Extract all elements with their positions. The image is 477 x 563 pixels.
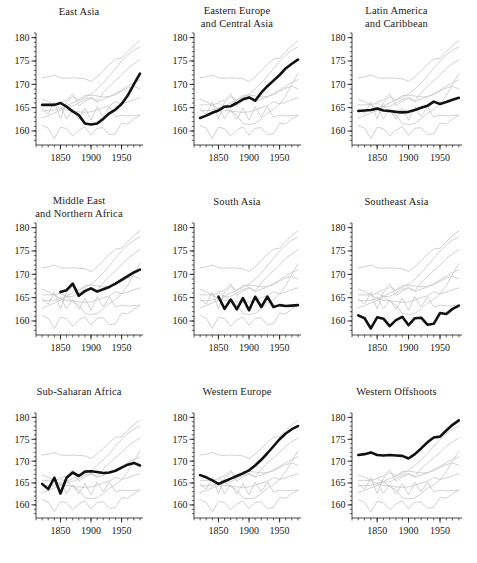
highlight-line-western-offshoots [358,420,459,458]
x-axis-major-ticks: 185019001950 [367,335,450,353]
y-tick-label: 170 [15,456,30,467]
plot-area-southeast-asia: 160165170175180185019001950 [316,190,477,380]
y-tick-label: 170 [173,79,188,90]
x-tick-label: 1850 [50,525,70,536]
x-axis-major-ticks: 185019001950 [50,518,131,536]
context-line-southeast-asia [42,490,140,511]
context-line-latin-america-caribbean [200,98,298,112]
y-tick-label: 170 [173,269,188,280]
x-tick-label: 1850 [367,525,387,536]
y-tick-label: 160 [15,315,30,326]
y-tick-label: 165 [331,102,346,113]
axis-spines [194,413,301,518]
y-tick-label: 180 [15,32,30,43]
y-tick-label: 165 [15,292,30,303]
context-line-western-offshoots [200,420,298,458]
context-line-latin-america-caribbean [358,288,459,302]
x-axis-major-ticks: 185019001950 [208,335,289,353]
plot-area-eastern-europe-central-asia: 160165170175180185019001950 [158,0,316,190]
y-tick-label: 180 [331,32,346,43]
context-line-western-offshoots [200,41,298,82]
x-axis-major-ticks: 185019001950 [367,145,450,163]
x-tick-label: 1950 [270,152,290,163]
context-line-southeast-asia [42,116,140,139]
axis-spines [352,223,462,335]
x-tick-label: 1900 [239,342,259,353]
y-tick-label: 160 [173,315,188,326]
context-line-western-offshoots [42,41,140,82]
axis-spines [352,413,462,518]
context-line-western-offshoots [358,231,459,272]
y-tick-label: 180 [331,222,346,233]
y-tick-label: 160 [173,125,188,136]
x-tick-label: 1950 [430,152,450,163]
x-axis-major-ticks: 185019001950 [367,518,450,536]
highlight-line-southeast-asia [358,306,459,329]
y-axis-major-ticks: 160165170175180 [15,412,37,511]
x-tick-label: 1950 [430,342,450,353]
y-tick-label: 180 [173,222,188,233]
y-tick-label: 165 [173,102,188,113]
x-tick-label: 1900 [399,342,419,353]
y-tick-label: 160 [173,499,188,510]
context-line-western-offshoots [358,41,459,82]
y-axis-major-ticks: 160165170175180 [331,222,353,326]
plot-area-latin-america-caribbean: 160165170175180185019001950 [316,0,477,190]
y-tick-label: 175 [173,55,188,66]
axis-spines [352,33,462,145]
context-line-southeast-asia [358,116,459,139]
y-axis-major-ticks: 160165170175180 [331,412,353,511]
panel-southeast-asia: Southeast Asia16016517017518018501900195… [316,190,477,380]
plot-area-western-europe: 160165170175180185019001950 [158,380,316,563]
y-tick-label: 160 [331,315,346,326]
x-tick-label: 1950 [112,152,132,163]
x-tick-label: 1900 [239,525,259,536]
x-axis-major-ticks: 185019001950 [208,518,289,536]
x-tick-label: 1900 [81,342,101,353]
plot-area-sub-saharan-africa: 160165170175180185019001950 [0,380,158,563]
x-tick-label: 1950 [270,525,290,536]
y-axis-major-ticks: 160165170175180 [15,32,37,136]
context-line-latin-america-caribbean [200,288,298,302]
highlight-series-group [358,420,459,458]
x-axis-major-ticks: 185019001950 [208,145,289,163]
axis-spines [194,223,301,335]
y-tick-label: 175 [15,434,30,445]
context-series-group [358,41,459,139]
y-axis-major-ticks: 160165170175180 [173,412,195,511]
x-tick-label: 1850 [50,152,70,163]
plot-area-east-asia: 160165170175180185019001950 [0,0,158,190]
y-tick-label: 170 [331,269,346,280]
context-line-western-offshoots [42,420,140,458]
x-tick-label: 1850 [367,152,387,163]
y-tick-label: 170 [173,456,188,467]
panel-middle-east-northern-africa: Middle East and Northern Africa160165170… [0,190,158,380]
context-line-southeast-asia [42,306,140,329]
x-tick-label: 1850 [50,342,70,353]
y-tick-label: 160 [15,125,30,136]
y-tick-label: 170 [331,79,346,90]
context-line-western-offshoots [42,231,140,272]
x-tick-label: 1950 [430,525,450,536]
highlight-series-group [358,306,459,329]
y-tick-label: 165 [15,102,30,113]
x-tick-label: 1950 [112,342,132,353]
y-tick-label: 180 [173,32,188,43]
x-axis-major-ticks: 185019001950 [50,145,131,163]
y-tick-label: 165 [173,477,188,488]
context-series-group [42,231,140,329]
y-tick-label: 165 [331,292,346,303]
context-line-western-offshoots [200,231,298,272]
context-line-latin-america-caribbean [358,474,459,488]
panel-eastern-europe-central-asia: Eastern Europe and Central Asia160165170… [158,0,316,190]
y-tick-label: 160 [15,499,30,510]
y-axis-major-ticks: 160165170175180 [15,222,37,326]
y-tick-label: 175 [15,245,30,256]
y-tick-label: 180 [173,412,188,423]
x-tick-label: 1900 [81,152,101,163]
y-tick-label: 175 [331,245,346,256]
y-tick-label: 165 [15,477,30,488]
plot-area-south-asia: 160165170175180185019001950 [158,190,316,380]
axis-spines [36,223,143,335]
y-axis-major-ticks: 160165170175180 [173,222,195,326]
